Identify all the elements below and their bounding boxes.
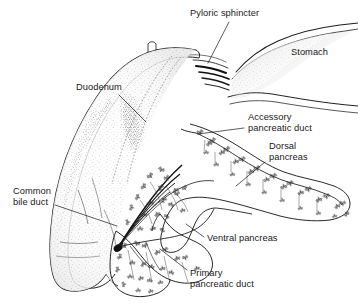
label-common-bile-duct: Common bile duct	[13, 186, 51, 207]
label-stomach: Stomach	[291, 47, 328, 58]
label-duodenum: Duodenum	[76, 82, 122, 93]
label-accessory-pancreatic-duct-line2: pancreatic duct	[248, 123, 312, 134]
label-ventral-pancreas: Ventral pancreas	[207, 233, 278, 244]
anatomical-figure: Pyloric sphincter Stomach Duodenum Acces…	[0, 0, 358, 304]
label-primary-pancreatic-duct-line2: pancreatic duct	[190, 279, 254, 290]
label-accessory-pancreatic-duct-line1: Accessory	[248, 112, 312, 123]
label-common-bile-duct-line2: bile duct	[13, 197, 51, 208]
label-primary-pancreatic-duct: Primary pancreatic duct	[190, 268, 254, 289]
label-pyloric-sphincter: Pyloric sphincter	[190, 8, 259, 19]
label-primary-pancreatic-duct-line1: Primary	[190, 268, 254, 279]
label-accessory-pancreatic-duct: Accessory pancreatic duct	[248, 112, 312, 133]
label-common-bile-duct-line1: Common	[13, 186, 51, 197]
label-dorsal-pancreas-line1: Dorsal	[269, 141, 308, 152]
label-dorsal-pancreas: Dorsal pancreas	[269, 141, 308, 162]
label-dorsal-pancreas-line2: pancreas	[269, 152, 308, 163]
